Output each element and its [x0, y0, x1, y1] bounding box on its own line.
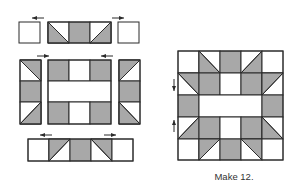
- plain-square: [19, 22, 40, 43]
- gray-square: [69, 22, 90, 43]
- plain-square: [118, 22, 139, 43]
- middle-row: [20, 56, 140, 124]
- bottom-row: [28, 135, 133, 161]
- quilt-assembly-diagram: [0, 0, 297, 186]
- finished-block: [174, 51, 283, 160]
- caption-make-count: Make 12.: [208, 171, 260, 182]
- top-row: [19, 18, 139, 43]
